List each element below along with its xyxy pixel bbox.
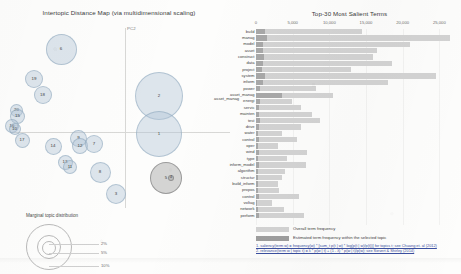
- bar-overall-frequency: [256, 61, 392, 66]
- bar-topic-frequency: [256, 67, 262, 72]
- bar-row[interactable]: power: [256, 86, 454, 91]
- topic-bubble-label: 15: [15, 114, 20, 118]
- bar-row[interactable]: inform: [256, 80, 454, 85]
- footnote-relevance[interactable]: 2. relevance(term w | topic t) = λ * p(w…: [256, 248, 461, 253]
- x-axis-tick-label: 25,000: [433, 20, 446, 25]
- bar-term-label[interactable]: test: [248, 118, 255, 124]
- topic-bubble-14[interactable]: 14: [45, 138, 62, 155]
- bar-row[interactable]: mainten: [256, 112, 454, 117]
- bar-row[interactable]: structur: [256, 175, 454, 180]
- bar-term-label[interactable]: drive: [246, 124, 255, 130]
- bar-row[interactable]: model: [256, 42, 454, 47]
- bar-row[interactable]: asset: [256, 48, 454, 53]
- bar-term-label[interactable]: asset_manag: [230, 92, 255, 98]
- legend-row-within: Estimated term frequency within the sele…: [256, 235, 456, 242]
- topic-bubble-17[interactable]: 17: [15, 133, 30, 148]
- bar-row[interactable]: project: [256, 67, 454, 72]
- bar-topic-frequency: [256, 137, 259, 142]
- bar-topic-frequency: [256, 112, 259, 117]
- bar-term-label[interactable]: data: [247, 60, 255, 66]
- bar-overall-frequency: [256, 118, 320, 123]
- bar-term-label[interactable]: system: [242, 73, 255, 79]
- bar-row[interactable]: inform_model: [256, 162, 454, 167]
- bar-term-label[interactable]: water: [244, 130, 254, 136]
- bar-row[interactable]: wind: [256, 150, 454, 155]
- bar-term-label[interactable]: control: [242, 137, 254, 143]
- bar-term-label[interactable]: model: [243, 41, 254, 47]
- bar-term-label[interactable]: inform_model: [230, 162, 255, 168]
- bar-term-label[interactable]: servic: [244, 105, 255, 111]
- bar-row[interactable]: servic: [256, 105, 454, 110]
- bar-term-label[interactable]: propos: [242, 187, 255, 193]
- bar-topic-frequency: [256, 213, 259, 218]
- topic-bubble-5[interactable]: 5: [150, 162, 182, 194]
- bar-term-label[interactable]: inform: [243, 79, 254, 85]
- bar-term-label[interactable]: type: [247, 156, 255, 162]
- bar-overall-frequency: [256, 143, 278, 148]
- bar-row[interactable]: manag: [256, 35, 454, 40]
- bar-row[interactable]: test: [256, 118, 454, 123]
- bar-row[interactable]: system: [256, 73, 454, 78]
- bar-row[interactable]: type: [256, 156, 454, 161]
- bar-term-label[interactable]: energi: [243, 98, 254, 104]
- topic-bubble-18[interactable]: 18: [34, 86, 52, 104]
- bar-term-label[interactable]: oper: [246, 143, 254, 149]
- bar-term-label[interactable]: construct: [238, 54, 255, 60]
- bar-row[interactable]: algorithm: [256, 169, 454, 174]
- topic-bubble-label: 8: [99, 170, 101, 174]
- bar-term-label[interactable]: mainten: [240, 111, 255, 117]
- bar-topic-frequency: [256, 35, 267, 40]
- bar-term-label[interactable]: algorithm: [238, 168, 255, 174]
- bar-overall-frequency: [256, 112, 312, 117]
- bar-term-label[interactable]: wind: [246, 149, 254, 155]
- bar-row[interactable]: construct: [256, 54, 454, 59]
- bar-overall-frequency: [256, 99, 292, 104]
- bar-term-label[interactable]: manag: [242, 35, 255, 41]
- legend-leader-10pct: [49, 266, 99, 267]
- bar-topic-frequency: [256, 93, 282, 98]
- bar-row[interactable]: data: [256, 61, 454, 66]
- x-axis-tick-label: 0: [255, 20, 257, 25]
- bar-term-label[interactable]: build: [246, 29, 255, 35]
- bar-topic-frequency: [256, 175, 258, 180]
- intertopic-map-plot[interactable]: PC2 PC1 6191820151610171413119127821543: [8, 26, 230, 208]
- bar-row[interactable]: water: [256, 131, 454, 136]
- bar-row[interactable]: drive: [256, 124, 454, 129]
- bar-row[interactable]: asset_manag: [256, 93, 454, 98]
- bar-term-label[interactable]: voltag: [244, 200, 255, 206]
- bar-row[interactable]: energi: [256, 99, 454, 104]
- bar-row[interactable]: oper: [256, 143, 454, 148]
- pc2-axis-line: [125, 28, 126, 208]
- bar-row[interactable]: control: [256, 194, 454, 199]
- legend-swatch-within-topic: [256, 236, 289, 241]
- topic-bubble-6[interactable]: 6: [46, 34, 77, 65]
- bar-row[interactable]: perform: [256, 213, 454, 218]
- bar-row[interactable]: build: [256, 29, 454, 34]
- pc2-axis-label: PC2: [127, 26, 136, 31]
- bar-row[interactable]: control: [256, 137, 454, 142]
- topic-bubble-8[interactable]: 8: [90, 162, 111, 183]
- bar-topic-frequency: [256, 61, 263, 66]
- bar-term-label[interactable]: structur: [241, 175, 255, 181]
- bar-row[interactable]: propos: [256, 188, 454, 193]
- bar-row[interactable]: network: [256, 207, 454, 212]
- legend-label-overall: Overall term frequency: [293, 226, 335, 231]
- bar-overall-frequency: [256, 73, 436, 78]
- bar-row[interactable]: build_inform: [256, 181, 454, 186]
- bar-term-label[interactable]: asset: [245, 48, 255, 54]
- topic-bubble-1[interactable]: 1: [136, 111, 182, 157]
- topic-bubble-label: 18: [40, 93, 45, 97]
- bar-term-label[interactable]: project: [242, 67, 254, 73]
- topic-bubble-11[interactable]: 11: [63, 160, 77, 174]
- bar-term-label[interactable]: control: [242, 194, 254, 200]
- bar-term-label[interactable]: perform: [240, 213, 254, 219]
- bar-term-label[interactable]: network: [240, 206, 254, 212]
- bar-row[interactable]: voltag: [256, 200, 454, 205]
- topic-bubble-label: 17: [20, 138, 25, 142]
- bar-term-label[interactable]: power: [243, 86, 254, 92]
- bar-term-label[interactable]: build_inform: [232, 181, 254, 187]
- topic-bubble-7[interactable]: 7: [85, 135, 103, 153]
- bar-overall-frequency: [256, 29, 362, 34]
- bar-topic-frequency: [256, 42, 263, 47]
- topic-bubble-3[interactable]: 3: [106, 184, 126, 204]
